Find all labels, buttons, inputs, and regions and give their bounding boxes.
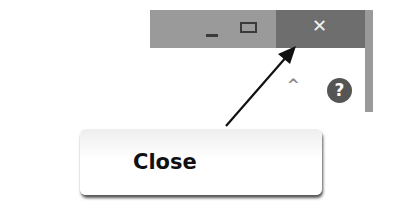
maximize-icon xyxy=(240,22,257,33)
help-icon[interactable]: ? xyxy=(327,78,352,103)
collapse-ribbon-icon[interactable]: ^ xyxy=(287,76,300,94)
maximize-button[interactable] xyxy=(236,10,276,48)
window-border xyxy=(365,48,373,112)
callout-label: Close xyxy=(133,150,197,174)
close-button[interactable]: ✕ xyxy=(276,10,365,48)
minimize-button[interactable] xyxy=(192,10,236,48)
close-icon: ✕ xyxy=(312,16,327,36)
minimize-icon xyxy=(206,34,218,37)
callout-box: Close xyxy=(80,129,322,195)
